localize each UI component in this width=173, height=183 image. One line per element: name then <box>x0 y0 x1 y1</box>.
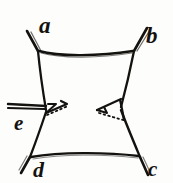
vertex-label-c: c <box>148 159 157 180</box>
vertex-label-b: b <box>146 24 158 47</box>
vertex-label-a: a <box>39 14 51 37</box>
vertex-label-e: e <box>14 113 23 134</box>
vertex-label-d: d <box>33 159 44 181</box>
figure-container: a b c d e <box>0 0 173 183</box>
bar-e-lower <box>8 108 45 109</box>
